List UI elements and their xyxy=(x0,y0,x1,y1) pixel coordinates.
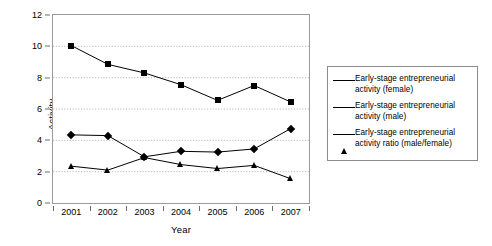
data-point xyxy=(105,133,111,139)
y-tick-4: 4 xyxy=(37,136,42,145)
data-point xyxy=(177,161,183,167)
x-tick-mark-1 xyxy=(90,206,91,211)
data-point xyxy=(288,99,294,105)
legend-marker-diamond-icon xyxy=(333,75,355,86)
legend-item-1: Early-stage entrepreneurial activity (ma… xyxy=(333,101,471,122)
y-tick-6: 6 xyxy=(37,105,42,114)
x-axis-title: Year xyxy=(52,224,310,235)
data-point xyxy=(178,148,184,154)
y-tick-mark-0 xyxy=(45,203,50,204)
x-tick-2007: 2007 xyxy=(281,208,301,217)
data-point xyxy=(251,162,257,168)
data-point xyxy=(215,149,221,155)
x-tick-mark-4 xyxy=(199,206,200,211)
legend-item-2: Early-stage entrepreneurial activity rat… xyxy=(333,128,471,149)
x-tick-2004: 2004 xyxy=(171,208,191,217)
x-tick-mark-6 xyxy=(272,206,273,211)
y-tick-mark-10 xyxy=(45,46,50,47)
y-tick-10: 10 xyxy=(32,42,42,51)
x-tick-2001: 2001 xyxy=(61,208,81,217)
y-tick-mark-12 xyxy=(45,15,50,16)
data-point xyxy=(68,132,74,138)
data-point xyxy=(68,43,74,49)
legend-label: Early-stage entrepreneurial activity (fe… xyxy=(355,74,471,95)
y-tick-mark-2 xyxy=(45,171,50,172)
data-point xyxy=(68,163,74,169)
chart-figure: Activity 024681012 200120022003200420052… xyxy=(0,0,492,246)
x-tick-mark-3 xyxy=(163,206,164,211)
x-tick-2002: 2002 xyxy=(98,208,118,217)
x-tick-mark-7 xyxy=(309,206,310,211)
y-tick-8: 8 xyxy=(37,73,42,82)
data-point xyxy=(251,83,257,89)
data-point xyxy=(141,70,147,76)
legend-item-0: Early-stage entrepreneurial activity (fe… xyxy=(333,74,471,95)
data-point xyxy=(141,154,147,160)
x-tick-2003: 2003 xyxy=(134,208,154,217)
x-axis-tick-labels: 2001200220032004200520062007 xyxy=(52,206,310,222)
x-tick-mark-5 xyxy=(236,206,237,211)
y-tick-12: 12 xyxy=(32,11,42,20)
x-tick-2005: 2005 xyxy=(208,208,228,217)
data-point-markers xyxy=(53,15,309,203)
y-tick-mark-4 xyxy=(45,140,50,141)
legend-label: Early-stage entrepreneurial activity rat… xyxy=(355,128,471,149)
y-axis-tick-labels: 024681012 xyxy=(0,14,50,204)
legend-label: Early-stage entrepreneurial activity (ma… xyxy=(355,101,471,122)
data-point xyxy=(251,146,257,152)
data-point xyxy=(104,167,110,173)
data-point xyxy=(178,82,184,88)
data-point xyxy=(288,126,294,132)
x-tick-mark-2 xyxy=(126,206,127,211)
y-tick-2: 2 xyxy=(37,167,42,176)
data-point xyxy=(215,97,221,103)
data-point xyxy=(105,61,111,67)
y-tick-mark-8 xyxy=(45,77,50,78)
data-point xyxy=(287,175,293,181)
y-tick-0: 0 xyxy=(37,199,42,208)
chart-legend: Early-stage entrepreneurial activity (fe… xyxy=(327,66,478,161)
x-tick-2006: 2006 xyxy=(244,208,264,217)
legend-marker-triangle-icon xyxy=(333,129,355,140)
plot-area xyxy=(52,14,310,204)
data-point xyxy=(214,165,220,171)
y-tick-mark-6 xyxy=(45,109,50,110)
legend-marker-square-icon xyxy=(333,102,355,113)
x-tick-mark-0 xyxy=(53,206,54,211)
